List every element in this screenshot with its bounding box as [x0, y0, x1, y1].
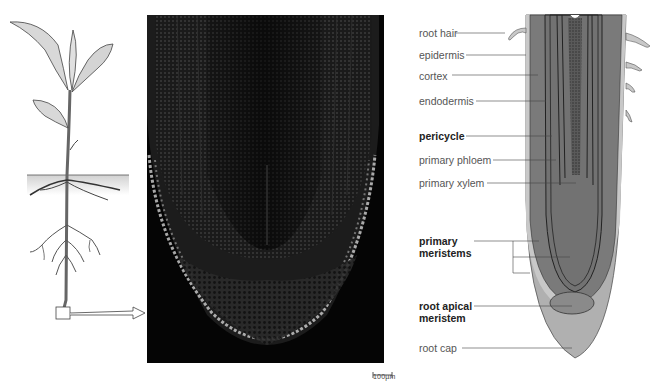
label-root-hair: root hair: [419, 27, 458, 39]
label-root-apical-meristem-line2: meristem: [419, 312, 472, 324]
label-root-apical-meristem-line1: root apical: [419, 300, 472, 312]
label-root-apical-meristem: root apical meristem: [419, 300, 472, 324]
label-pericycle: pericycle: [419, 130, 465, 142]
label-primary-meristems-line2: meristems: [419, 247, 472, 259]
scale-bar-label: 100µm: [373, 373, 396, 380]
root-tip-micrograph: [147, 15, 384, 363]
label-epidermis: epidermis: [419, 49, 465, 61]
label-primary-xylem: primary xylem: [419, 177, 484, 189]
plant-drawing-icon: [0, 0, 145, 385]
micrograph-image-icon: [147, 15, 384, 363]
label-primary-phloem: primary phloem: [419, 154, 491, 166]
label-primary-meristems-line1: primary: [419, 235, 472, 247]
root-tip-diagram: root hair epidermis cortex endodermis pe…: [410, 0, 661, 385]
label-endodermis: endodermis: [419, 95, 474, 107]
label-primary-meristems: primary meristems: [419, 235, 472, 259]
plant-illustration: [0, 0, 145, 385]
root-tip-highlight-box: [56, 307, 70, 319]
label-root-cap: root cap: [419, 342, 457, 354]
label-cortex: cortex: [419, 70, 448, 82]
